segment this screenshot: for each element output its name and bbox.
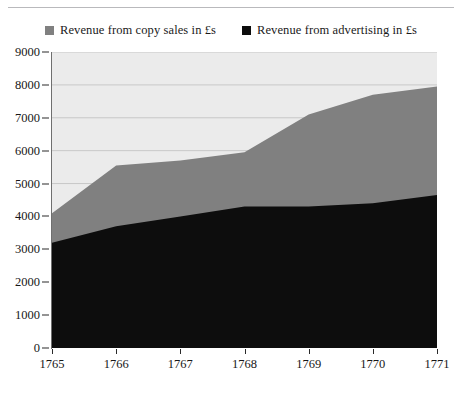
x-axis-tick-label: 1769 <box>296 357 321 372</box>
x-axis-tick-mark <box>52 349 53 354</box>
stacked-area-plot <box>52 52 437 348</box>
chart-page: Revenue from copy sales in £s Revenue fr… <box>0 0 462 394</box>
x-axis-tick-label: 1765 <box>40 357 65 372</box>
y-axis-tick-label: 0 <box>34 341 40 356</box>
x-axis-tick-label: 1770 <box>360 357 385 372</box>
square-marker-icon <box>45 26 54 35</box>
y-axis-tick-label: 3000 <box>15 242 40 257</box>
y-axis-tick-label: 2000 <box>15 275 40 290</box>
y-axis-tick-mark <box>42 315 49 316</box>
legend-label-advertising: Revenue from advertising in £s <box>257 23 417 38</box>
y-axis-tick-label: 1000 <box>15 308 40 323</box>
y-axis-tick-mark <box>42 348 49 349</box>
x-axis-tick-label: 1771 <box>425 357 450 372</box>
x-axis-tick-mark <box>245 349 246 354</box>
legend-item-advertising[interactable]: Revenue from advertising in £s <box>242 23 417 38</box>
y-axis-tick-label: 8000 <box>15 77 40 92</box>
x-axis: 1765176617671768176917701771 <box>52 349 437 379</box>
y-axis-tick-label: 9000 <box>15 45 40 60</box>
x-axis-tick-label: 1767 <box>168 357 193 372</box>
x-axis-tick-mark <box>437 349 438 354</box>
y-axis: 0100020003000400050006000700080009000 <box>0 52 52 348</box>
y-axis-tick-label: 6000 <box>15 143 40 158</box>
y-axis-tick-mark <box>42 150 49 151</box>
legend-item-copy-sales[interactable]: Revenue from copy sales in £s <box>45 23 216 38</box>
y-axis-tick-mark <box>42 117 49 118</box>
x-axis-tick-mark <box>116 349 117 354</box>
square-marker-icon <box>242 26 251 35</box>
y-axis-tick-mark <box>42 249 49 250</box>
legend-label-copy-sales: Revenue from copy sales in £s <box>60 23 216 38</box>
y-axis-tick-mark <box>42 52 49 53</box>
y-axis-tick-label: 5000 <box>15 176 40 191</box>
x-axis-tick-mark <box>373 349 374 354</box>
top-divider <box>8 7 454 8</box>
plot-area <box>52 52 437 348</box>
y-axis-tick-mark <box>42 183 49 184</box>
y-axis-tick-mark <box>42 84 49 85</box>
y-axis-tick-label: 7000 <box>15 110 40 125</box>
y-axis-tick-label: 4000 <box>15 209 40 224</box>
y-axis-tick-mark <box>42 216 49 217</box>
x-axis-tick-label: 1768 <box>232 357 257 372</box>
chart-legend: Revenue from copy sales in £s Revenue fr… <box>0 20 462 40</box>
x-axis-tick-mark <box>309 349 310 354</box>
x-axis-tick-mark <box>180 349 181 354</box>
x-axis-tick-label: 1766 <box>104 357 129 372</box>
y-axis-tick-mark <box>42 282 49 283</box>
